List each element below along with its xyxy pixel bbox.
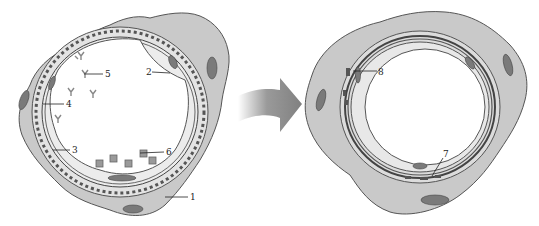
label-6: 6 [166, 147, 172, 157]
panel-after: 8 7 [305, 12, 527, 214]
label-4: 4 [66, 99, 72, 109]
label-2: 2 [146, 67, 152, 77]
diagram-canvas: 1 2 3 4 5 6 [0, 0, 539, 226]
nucleus [413, 163, 427, 169]
nucleus [123, 205, 143, 213]
nucleus [421, 195, 449, 205]
label-1: 1 [190, 192, 196, 202]
label-3: 3 [72, 145, 78, 155]
nucleus [108, 175, 136, 181]
transition-arrow-icon [238, 78, 302, 132]
label-8: 8 [378, 67, 384, 77]
label-5: 5 [105, 69, 111, 79]
panel-before: 1 2 3 4 5 6 [17, 13, 229, 216]
label-7: 7 [443, 149, 449, 159]
nucleus [356, 67, 361, 83]
nucleus [207, 57, 217, 79]
